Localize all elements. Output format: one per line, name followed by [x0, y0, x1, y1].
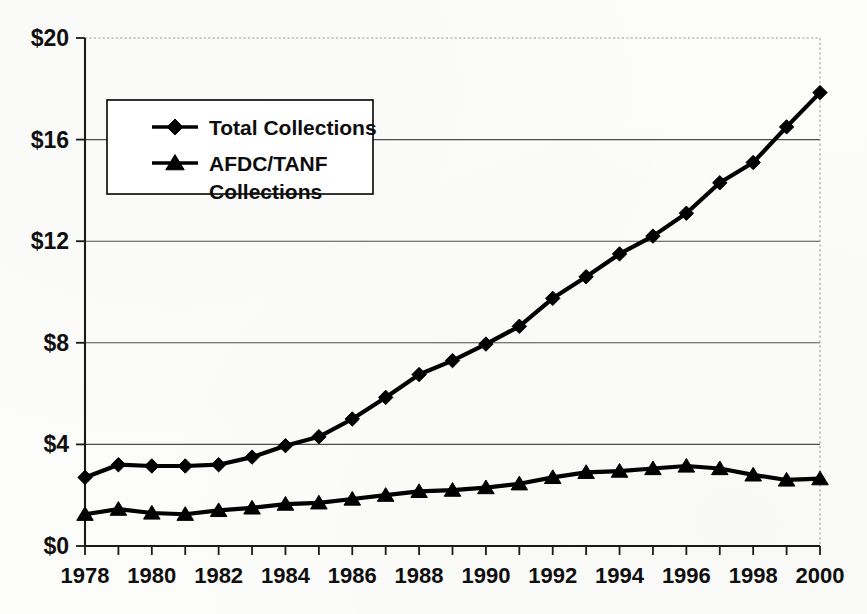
y-tick-label: $20: [31, 25, 69, 51]
x-tick-label: 1994: [595, 563, 645, 588]
line-chart-plot: $0$4$8$12$16$20 197819801982198419861988…: [0, 0, 867, 614]
y-axis-ticks: [76, 38, 85, 546]
x-axis-tick-labels: 1978198019821984198619881990199219941996…: [61, 563, 845, 588]
y-axis-tick-labels: $0$4$8$12$16$20: [31, 25, 70, 559]
legend-label: AFDC/TANF: [209, 152, 328, 175]
data-point-marker: [145, 459, 159, 473]
x-tick-label: 1982: [194, 563, 243, 588]
x-tick-label: 1988: [395, 563, 444, 588]
data-point-marker: [245, 450, 259, 464]
x-tick-label: 1986: [328, 563, 377, 588]
data-point-marker: [78, 470, 92, 484]
x-axis-ticks: [85, 546, 820, 555]
x-tick-label: 1980: [127, 563, 176, 588]
chart-figure: $0$4$8$12$16$20 197819801982198419861988…: [0, 0, 867, 614]
data-point-marker: [178, 459, 192, 473]
y-tick-label: $0: [43, 533, 69, 559]
legend-label-line2: Collections: [209, 180, 322, 203]
data-point-marker: [445, 353, 459, 367]
x-tick-label: 1998: [729, 563, 778, 588]
x-tick-label: 1990: [461, 563, 510, 588]
legend-label: Total Collections: [209, 116, 377, 139]
x-tick-label: 1978: [61, 563, 110, 588]
x-tick-label: 1984: [261, 563, 311, 588]
data-point-marker: [111, 458, 125, 472]
x-tick-label: 1992: [528, 563, 577, 588]
y-tick-label: $12: [31, 228, 69, 254]
x-tick-label: 1996: [662, 563, 711, 588]
y-tick-label: $16: [31, 127, 69, 153]
chart-legend: Total CollectionsAFDC/TANFCollections: [107, 100, 377, 203]
data-point-marker: [211, 458, 225, 472]
x-tick-label: 2000: [796, 563, 845, 588]
y-tick-label: $4: [43, 431, 69, 457]
y-tick-label: $8: [43, 330, 69, 356]
data-point-marker: [278, 438, 292, 452]
